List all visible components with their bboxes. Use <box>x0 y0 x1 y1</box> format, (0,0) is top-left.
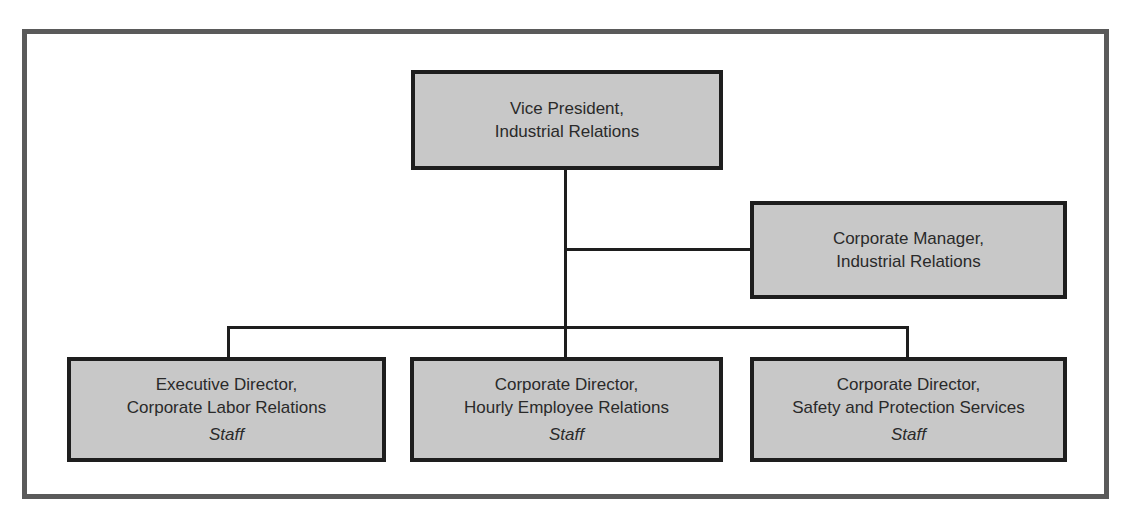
node-corporate-manager: Corporate Manager, Industrial Relations <box>750 201 1067 299</box>
node-title: Corporate Director, <box>495 373 639 396</box>
node-subtitle: Industrial Relations <box>836 250 981 273</box>
node-safety-director: Corporate Director, Safety and Protectio… <box>750 357 1067 462</box>
node-title: Executive Director, <box>156 373 298 396</box>
connector-exec-drop <box>227 326 230 358</box>
node-role: Staff <box>891 423 926 446</box>
node-executive-director: Executive Director, Corporate Labor Rela… <box>67 357 386 462</box>
node-title: Corporate Director, <box>837 373 981 396</box>
connector-manager-branch <box>564 248 752 251</box>
node-subtitle: Safety and Protection Services <box>792 396 1024 419</box>
node-subtitle: Hourly Employee Relations <box>464 396 669 419</box>
node-hourly-director: Corporate Director, Hourly Employee Rela… <box>410 357 723 462</box>
node-title: Vice President, <box>510 97 624 120</box>
node-subtitle: Industrial Relations <box>495 120 640 143</box>
node-vice-president: Vice President, Industrial Relations <box>411 70 723 170</box>
node-subtitle: Corporate Labor Relations <box>127 396 326 419</box>
connector-vp-trunk <box>564 168 567 358</box>
connector-safety-drop <box>906 326 909 358</box>
connector-director-bus <box>227 326 909 329</box>
node-role: Staff <box>209 423 244 446</box>
node-title: Corporate Manager, <box>833 227 984 250</box>
node-role: Staff <box>549 423 584 446</box>
